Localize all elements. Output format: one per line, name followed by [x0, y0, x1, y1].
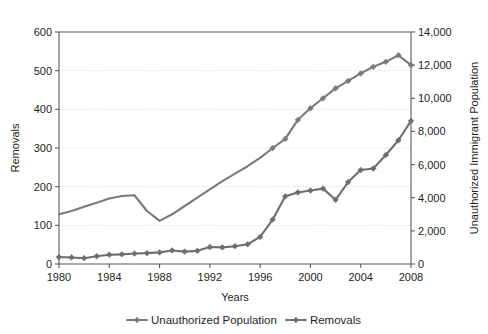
chart-legend: Unauthorized PopulationRemovals	[127, 314, 361, 326]
x-tick-label: 2000	[298, 271, 322, 283]
y2-axis-title: Unauthorized Immigrant Population	[468, 62, 480, 234]
data-point-marker	[106, 252, 112, 258]
series-2	[56, 118, 414, 261]
data-point-marker	[169, 248, 175, 254]
data-point-marker	[81, 255, 87, 261]
y2-tick-label: 0	[418, 258, 424, 270]
gridlines	[59, 71, 411, 226]
y2-tick-label: 8,000	[418, 125, 446, 137]
x-tick-label: 1996	[248, 271, 272, 283]
y-tick-label: 500	[34, 65, 52, 77]
data-point-marker	[119, 251, 125, 257]
x-axis-ticks: 19801984198819921996200020042008	[47, 264, 423, 283]
x-axis-title: Years	[221, 291, 249, 303]
data-point-marker	[134, 317, 140, 323]
y2-tick-label: 6,000	[418, 159, 446, 171]
legend-item-1[interactable]: Unauthorized Population	[127, 314, 277, 326]
data-point-marker	[232, 243, 238, 249]
x-tick-label: 1984	[97, 271, 121, 283]
data-point-marker	[194, 248, 200, 254]
data-point-marker	[132, 251, 138, 257]
x-tick-label: 2008	[399, 271, 423, 283]
y-tick-label: 400	[34, 103, 52, 115]
data-point-marker	[144, 250, 150, 256]
y-tick-label: 300	[34, 142, 52, 154]
legend-item-2[interactable]: Removals	[286, 314, 361, 326]
y-tick-label: 200	[34, 181, 52, 193]
data-point-marker	[94, 253, 100, 259]
y2-tick-label: 2,000	[418, 225, 446, 237]
y-axis-title: Removals	[9, 123, 21, 172]
series-line	[59, 55, 411, 221]
data-point-marker	[182, 249, 188, 255]
x-tick-label: 1992	[198, 271, 222, 283]
y2-tick-label: 14,000	[418, 26, 452, 38]
chart-container: 0100200300400500600 02,0004,0006,0008,00…	[0, 0, 488, 334]
plot-frame	[59, 32, 411, 264]
chart-svg: 0100200300400500600 02,0004,0006,0008,00…	[0, 0, 488, 334]
data-point-marker	[56, 254, 62, 260]
y-axis-ticks: 0100200300400500600	[34, 26, 59, 270]
data-point-marker	[220, 244, 226, 250]
y-tick-label: 0	[46, 258, 52, 270]
y-tick-label: 600	[34, 26, 52, 38]
series-1	[59, 52, 414, 221]
data-point-marker	[293, 317, 299, 323]
y2-tick-label: 10,000	[418, 92, 452, 104]
x-tick-label: 2004	[348, 271, 372, 283]
axis-titles: YearsRemovalsUnauthorized Immigrant Popu…	[9, 62, 480, 303]
y-tick-label: 100	[34, 219, 52, 231]
legend-label: Removals	[310, 314, 361, 326]
data-point-marker	[295, 190, 301, 196]
x-tick-label: 1980	[47, 271, 71, 283]
y2-tick-label: 4,000	[418, 192, 446, 204]
y2-axis-ticks: 02,0004,0006,0008,00010,00012,00014,000	[411, 26, 452, 270]
legend-label: Unauthorized Population	[151, 314, 277, 326]
series-line	[59, 121, 411, 258]
series-layer	[56, 52, 414, 261]
data-point-marker	[69, 255, 75, 261]
data-point-marker	[157, 250, 163, 256]
x-tick-label: 1988	[147, 271, 171, 283]
data-point-marker	[308, 188, 314, 194]
y2-tick-label: 12,000	[418, 59, 452, 71]
data-point-marker	[207, 244, 213, 250]
